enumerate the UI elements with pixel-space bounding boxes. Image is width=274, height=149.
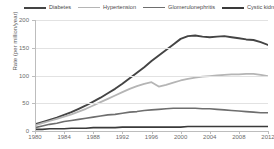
legend-swatch-icon — [143, 7, 165, 8]
x-tick-mark — [35, 131, 36, 134]
chart-legend: DiabetesHypertensionGlomerulonephritisCy… — [24, 1, 274, 14]
legend-swatch-icon — [24, 7, 46, 9]
legend-item-cystic-kidney[interactable]: Cystic kidney — [222, 5, 274, 11]
legend-item-glomerulonephritis[interactable]: Glomerulonephritis — [143, 5, 215, 11]
x-tick-label: 2008 — [226, 134, 252, 140]
legend-label: Hypertension — [103, 5, 136, 11]
x-tick-label: 1988 — [80, 134, 106, 140]
x-tick-mark — [152, 131, 153, 134]
x-tick-mark — [122, 131, 123, 134]
legend-item-diabetes[interactable]: Diabetes — [24, 5, 71, 11]
gridline — [35, 48, 268, 49]
x-tick-label: 1992 — [109, 134, 135, 140]
gridline — [35, 20, 268, 21]
legend-swatch-icon — [78, 7, 100, 8]
legend-swatch-icon — [222, 7, 244, 9]
x-tick-label: 2004 — [197, 134, 223, 140]
y-axis-line — [35, 20, 36, 132]
y-tick-label: 50 — [5, 100, 29, 106]
x-tick-mark — [239, 131, 240, 134]
x-tick-label: 1980 — [22, 134, 48, 140]
legend-label: Glomerulonephritis — [168, 5, 215, 11]
gridline — [35, 76, 268, 77]
x-tick-mark — [210, 131, 211, 134]
x-tick-label: 2012 — [255, 134, 274, 140]
legend-label: Cystic kidney — [247, 5, 274, 11]
x-tick-mark — [64, 131, 65, 134]
x-tick-mark — [93, 131, 94, 134]
gridline — [35, 103, 268, 104]
legend-item-hypertension[interactable]: Hypertension — [78, 5, 136, 11]
x-tick-label: 1984 — [51, 134, 77, 140]
x-tick-mark — [181, 131, 182, 134]
y-axis-title: Rate (per million/year) — [12, 0, 18, 87]
legend-label: Diabetes — [49, 5, 71, 11]
plot-area — [35, 20, 268, 131]
x-tick-mark — [268, 131, 269, 134]
x-tick-label: 2000 — [168, 134, 194, 140]
line-chart: DiabetesHypertensionGlomerulonephritisCy… — [0, 0, 274, 149]
gridlines — [35, 20, 268, 131]
x-tick-label: 1996 — [139, 134, 165, 140]
